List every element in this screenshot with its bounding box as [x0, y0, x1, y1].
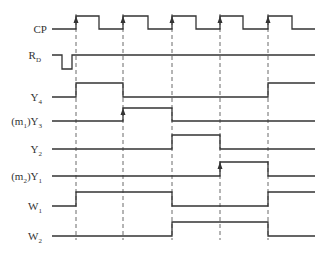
rising-edge-arrow-icon — [170, 16, 175, 23]
signal-y1: (m2)Y1 — [11, 162, 315, 185]
rising-edge-arrow-icon — [218, 16, 223, 23]
rising-edge-arrow-icon — [121, 16, 126, 23]
signal-y2: Y2 — [31, 135, 315, 158]
rising-edge-arrow-icon — [218, 162, 223, 169]
signal-label-y4: Y4 — [31, 91, 43, 106]
signal-y3: (m1)Y3 — [11, 108, 315, 130]
signal-cp: CP — [34, 16, 315, 35]
signal-label-w1: W1 — [28, 200, 42, 215]
signal-label-y3: (m1)Y3 — [11, 115, 42, 130]
signal-label-rd: RD — [29, 49, 41, 64]
timing-diagram: CP RD Y4 (m1)Y3 Y2 (m2)Y1 W1 W2 — [0, 0, 333, 255]
signal-label-cp: CP — [34, 23, 47, 35]
signal-y4: Y4 — [31, 83, 315, 106]
signal-w2: W2 — [28, 222, 315, 245]
rising-edge-arrow-icon — [74, 16, 79, 23]
signal-w1: W1 — [28, 192, 315, 215]
rising-edge-arrow-icon — [121, 108, 126, 115]
signal-label-y2: Y2 — [31, 143, 43, 158]
signal-label-w2: W2 — [28, 230, 42, 245]
signal-label-y1: (m2)Y1 — [11, 170, 42, 185]
rising-edge-arrow-icon — [266, 16, 271, 23]
